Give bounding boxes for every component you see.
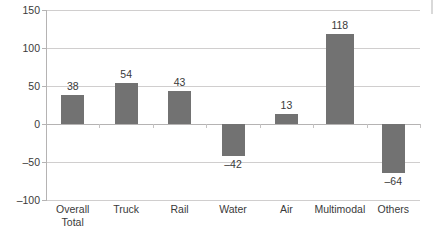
- x-axis-label-line: Rail: [153, 203, 206, 216]
- x-axis-label-line: Others: [367, 203, 420, 216]
- category-tick: [153, 124, 154, 128]
- x-axis-category-label: Rail: [153, 203, 206, 216]
- x-axis-label-line: Truck: [99, 203, 152, 216]
- y-axis-tick-label: 0: [2, 119, 40, 130]
- bar: [275, 114, 298, 124]
- y-tick--100: [42, 200, 47, 201]
- bar: [326, 34, 354, 124]
- bar-value-label: 13: [256, 100, 316, 111]
- bar-value-label: –64: [363, 176, 423, 187]
- bar-value-label: –42: [203, 159, 263, 170]
- x-axis-label-line: Water: [206, 203, 259, 216]
- bar: [115, 83, 138, 124]
- x-axis-label-line: Overall: [46, 203, 99, 216]
- bar-chart: 150100500–50–100 385443–4213118–64 Overa…: [0, 0, 433, 244]
- bar-value-label: 54: [96, 69, 156, 80]
- y-axis-tick-label: –100: [2, 195, 40, 206]
- y-axis-tick-label: 50: [2, 81, 40, 92]
- x-axis-category-label: Truck: [99, 203, 152, 216]
- x-axis-labels: OverallTotalTruckRailWaterAirMultimodalO…: [46, 203, 420, 243]
- bar: [168, 91, 191, 124]
- category-tick: [367, 124, 368, 128]
- bar-value-label: 43: [150, 77, 210, 88]
- x-axis-label-line: Total: [46, 216, 99, 229]
- gridline-150: [46, 10, 420, 11]
- bar: [61, 95, 84, 124]
- x-axis-category-label: Multimodal: [313, 203, 366, 216]
- y-axis-tick-label: –50: [2, 157, 40, 168]
- y-tick-100: [42, 48, 47, 49]
- y-tick-150: [42, 10, 47, 11]
- bar: [222, 124, 245, 156]
- x-axis-category-label: Air: [260, 203, 313, 216]
- category-tick: [313, 124, 314, 128]
- x-axis-label-line: Air: [260, 203, 313, 216]
- category-tick: [206, 124, 207, 128]
- y-tick--50: [42, 162, 47, 163]
- bar-value-label: 38: [43, 81, 103, 92]
- category-tick: [260, 124, 261, 128]
- gridline--100: [46, 200, 420, 201]
- category-tick: [99, 124, 100, 128]
- gridline-100: [46, 48, 420, 49]
- y-axis-labels: 150100500–50–100: [0, 0, 40, 244]
- plot-area: 385443–4213118–64: [46, 10, 420, 200]
- category-tick: [420, 124, 421, 128]
- y-tick-0: [42, 124, 47, 125]
- x-axis-label-line: Multimodal: [313, 203, 366, 216]
- y-axis-tick-label: 150: [2, 5, 40, 16]
- x-axis-category-label: OverallTotal: [46, 203, 99, 229]
- x-axis-category-label: Others: [367, 203, 420, 216]
- bar-value-label: 118: [310, 20, 370, 31]
- x-axis-category-label: Water: [206, 203, 259, 216]
- y-tick-50: [42, 86, 47, 87]
- bar: [382, 124, 405, 173]
- y-axis-tick-label: 100: [2, 43, 40, 54]
